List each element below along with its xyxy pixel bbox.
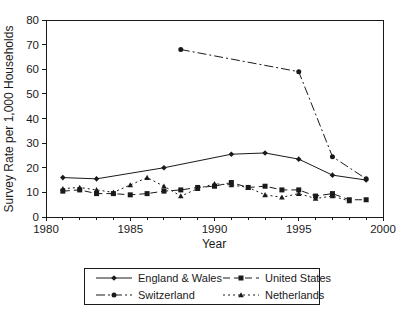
x-tick-label: 1995 [286,223,312,235]
legend-sample-circle-icon [95,290,133,300]
data-point-united-states [178,187,183,192]
legend-item-netherlands: Netherlands [222,289,331,301]
y-tick-label: 10 [26,186,39,198]
legend-label-united-states: United States [265,272,331,284]
data-point-united-states [263,184,268,189]
y-tick-label: 60 [26,63,39,75]
data-point-netherlands [212,181,218,186]
data-point-united-states [161,189,166,194]
data-point-england-wales [60,175,66,181]
data-point-england-wales [229,151,235,157]
legend-box: England & WalesUnited StatesSwitzerlandN… [84,268,320,305]
x-axis-title: Year [202,237,226,251]
data-point-netherlands [262,192,268,197]
legend-sample-marker [238,276,243,281]
legend-item-united-states: United States [222,272,331,284]
axis-tick-labels: 0102030405060708019801985199019952000 [26,14,396,235]
y-tick-label: 40 [26,113,39,125]
y-tick-label: 0 [33,211,39,223]
data-point-england-wales [330,172,336,178]
data-point-england-wales [94,176,100,182]
series-switzerland [178,47,368,181]
series-line-netherlands [63,178,349,201]
legend-sample-marker [112,292,117,297]
axis-ticks [42,20,383,221]
data-point-netherlands [279,195,285,200]
y-axis-title: Survey Rate per 1,000 Households [2,26,16,213]
data-point-united-states [128,192,133,197]
series-layer [60,47,369,203]
x-tick-label: 2000 [370,223,396,235]
data-point-switzerland [364,176,369,181]
legend-item-switzerland: Switzerland [95,289,222,301]
data-point-england-wales [262,150,268,156]
legend-sample-triangle-icon [222,290,260,300]
series-line-england-wales [63,153,366,180]
x-tick-label: 1990 [202,223,228,235]
legend-item-england-wales: England & Wales [95,272,222,284]
data-point-england-wales [161,165,167,171]
legend-label-england-wales: England & Wales [138,272,222,284]
y-tick-label: 50 [26,88,39,100]
y-tick-label: 70 [26,39,39,51]
x-tick-label: 1985 [117,223,143,235]
chart-figure: 0102030405060708019801985199019952000 Ye… [0,0,401,322]
y-tick-label: 20 [26,162,39,174]
data-point-switzerland [296,69,301,74]
data-point-netherlands [144,175,150,180]
legend-label-netherlands: Netherlands [265,289,324,301]
data-point-netherlands [127,182,133,187]
data-point-switzerland [330,154,335,159]
legend-sample-diamond-icon [95,273,133,283]
legend-sample-square-icon [222,273,260,283]
data-point-netherlands [161,183,167,188]
y-tick-label: 30 [26,137,39,149]
data-point-united-states [145,191,150,196]
data-point-netherlands [77,185,83,190]
legend-sample-marker [111,275,117,281]
x-tick-label: 1980 [33,223,59,235]
data-point-united-states [364,197,369,202]
series-line-switzerland [181,50,366,179]
y-tick-label: 80 [26,14,39,26]
data-point-united-states [279,187,284,192]
data-point-switzerland [178,47,183,52]
series-england-wales [60,150,369,183]
data-point-england-wales [296,156,302,162]
data-point-netherlands [178,193,184,198]
legend-label-switzerland: Switzerland [138,289,195,301]
series-netherlands [60,175,352,203]
